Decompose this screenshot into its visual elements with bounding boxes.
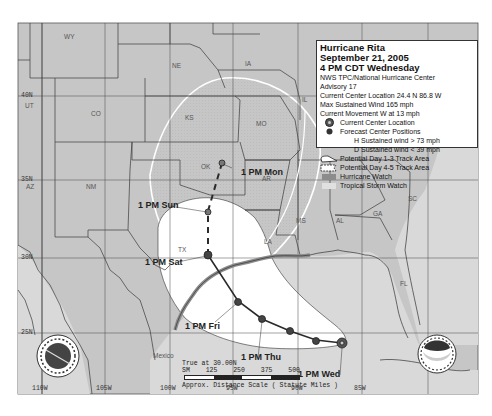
forecast-label-mon: 1 PM Mon — [241, 167, 283, 177]
agency-name: NWS TPC/National Hurricane Center — [320, 73, 474, 82]
legend-label: Potential Day 4-5 Track Area — [340, 163, 429, 172]
legend-item-d: D Sustained wind < 39 mph — [320, 145, 474, 154]
scale-bar — [184, 375, 300, 380]
state-label-ne: NE — [172, 62, 181, 69]
state-label-la: LA — [264, 238, 272, 245]
legend-item-forecast-center: Forecast Center Positions — [320, 127, 474, 136]
tropical-storm-watch-swatch — [322, 183, 336, 189]
lon-label-105w: 105W — [96, 385, 112, 392]
scale-tick: 125 — [206, 367, 218, 374]
advisory-number: Advisory 17 — [320, 82, 474, 91]
state-label-tx: TX — [178, 246, 186, 253]
legend-item-day13: Potential Day 1-3 Track Area — [320, 154, 474, 163]
legend-label: Potential Day 1-3 Track Area — [340, 154, 429, 163]
scale-tick: 375 — [261, 367, 273, 374]
forecast-point-h — [287, 328, 294, 335]
state-label-fl: FL — [400, 280, 408, 287]
state-label-co: CO — [91, 110, 101, 117]
forecast-point-h — [313, 338, 320, 345]
lat-label-25n: 25N — [21, 329, 33, 336]
legend-label: Current Center Location — [340, 118, 415, 127]
advisory-time: 4 PM CDT Wednesday — [320, 63, 474, 73]
state-label-ks: KS — [185, 114, 194, 121]
state-label-ok: OK — [201, 163, 210, 170]
forecast-center-icon — [326, 128, 333, 135]
state-label-ut: UT — [25, 102, 34, 109]
noaa-logo-icon — [418, 335, 456, 373]
state-label-al: AL — [336, 217, 344, 224]
distance-scale: True at 30.00N SM 125 250 375 500 Approx… — [182, 360, 338, 389]
legend-label: Forecast Center Positions — [340, 127, 421, 136]
forecast-point-d — [219, 160, 225, 166]
state-label-mo: MO — [256, 120, 266, 127]
country-label-mexico: Mexico — [153, 352, 174, 359]
legend-item-current-center: Current Center Location — [320, 118, 474, 127]
state-label-sc: SC — [408, 195, 417, 202]
legend-item-tropical-storm-watch: Tropical Storm Watch — [320, 181, 474, 190]
scale-tick: SM — [182, 367, 190, 374]
forecast-label-sat: 1 PM Sat — [145, 257, 183, 267]
lon-label-110w: 110W — [32, 385, 48, 392]
max-sustained-wind: Max Sustained Wind 165 mph — [320, 100, 474, 109]
current-location: Current Center Location 24.4 N 86.8 W — [320, 91, 474, 100]
legend-item-hurricane-watch: Hurricane Watch — [320, 172, 474, 181]
lon-label-85w: 85W — [354, 385, 366, 392]
lat-label-35n: 35N — [21, 176, 33, 183]
legend-label: Hurricane Watch — [340, 172, 392, 181]
lat-label-40n: 40N — [21, 92, 33, 99]
lon-label-100w: 100W — [160, 385, 176, 392]
day45-cone-icon — [320, 164, 338, 172]
legend-item-h: H Sustained wind > 73 mph — [320, 136, 474, 145]
lat-label-30n: 30N — [21, 254, 33, 261]
scale-true-at: True at 30.00N — [182, 360, 338, 367]
current-movement: Current Movement W at 13 mph — [320, 109, 474, 118]
state-label-ga: GA — [373, 210, 382, 217]
scale-caption: Approx. Distance Scale ( Statute Miles ) — [182, 382, 338, 389]
legend-box: Hurricane Rita September 21, 2005 4 PM C… — [316, 40, 478, 148]
scale-tick: 500 — [288, 367, 300, 374]
forecast-label-sun: 1 PM Sun — [138, 200, 179, 210]
state-label-il: IL — [302, 96, 307, 103]
state-label-nm: NM — [86, 183, 96, 190]
hurricane-watch-swatch — [322, 174, 336, 180]
day13-cone-icon — [320, 155, 338, 163]
forecast-point-h — [204, 251, 212, 259]
current-center-icon — [325, 118, 334, 127]
legend-item-day45: Potential Day 4-5 Track Area — [320, 163, 474, 172]
state-label-wy: WY — [64, 33, 74, 40]
state-label-ia: IA — [245, 60, 251, 67]
legend-label: Tropical Storm Watch — [340, 181, 407, 190]
scale-tick: 250 — [233, 367, 245, 374]
state-label-az: AZ — [26, 183, 34, 190]
state-label-ms: MS — [296, 217, 306, 224]
nws-logo-icon — [37, 335, 79, 377]
forecast-label-fri: 1 PM Fri — [185, 321, 220, 331]
